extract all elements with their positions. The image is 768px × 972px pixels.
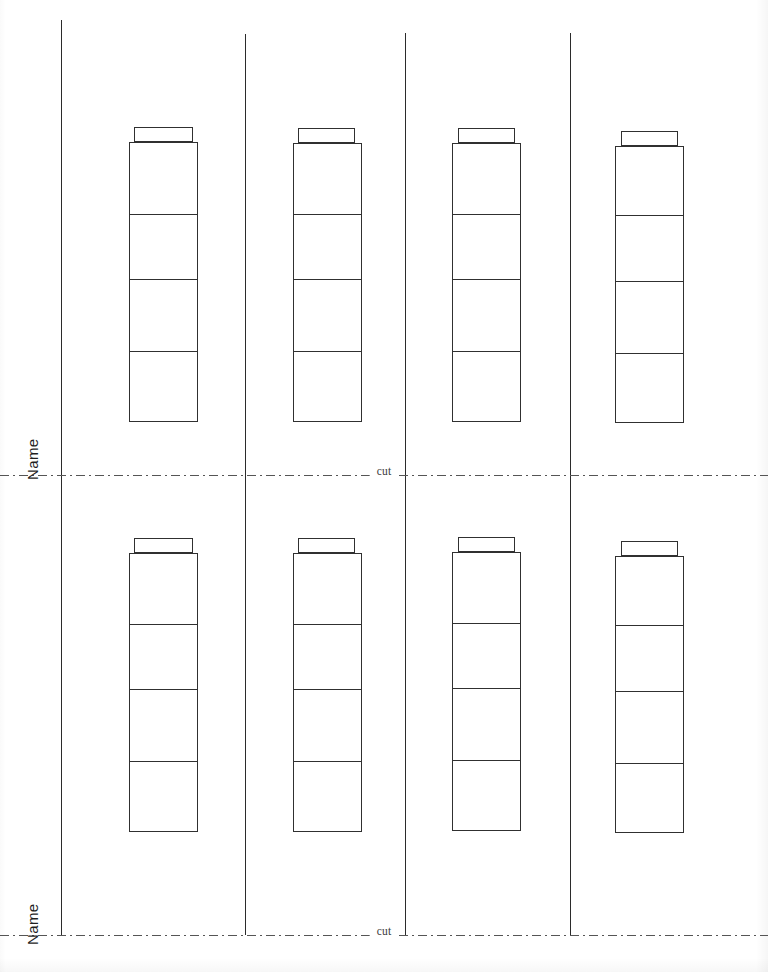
tower-segment-divider: [294, 624, 361, 625]
column-divider-rule-3: [405, 33, 406, 935]
tower-cap: [298, 128, 355, 143]
paper-edge-right-shadow: [756, 0, 768, 972]
tower-cap: [458, 537, 515, 552]
cut-line-label: cut: [370, 466, 399, 478]
tower-segment-divider: [294, 761, 361, 762]
worksheet-page: cutcut NameName: [0, 0, 768, 972]
tower-body: [615, 146, 684, 423]
column-divider-rule-1: [61, 20, 62, 935]
tower-cap: [134, 538, 193, 553]
tower-cap: [298, 538, 355, 553]
tower-body: [452, 143, 521, 422]
tower-segment-divider: [294, 351, 361, 352]
paper-edge-left-shadow: [0, 0, 6, 972]
tower-segment-divider: [130, 279, 197, 280]
tower-segment-divider: [453, 760, 520, 761]
tower-segment-divider: [616, 691, 683, 692]
tower-cap: [458, 128, 515, 143]
tower-segment-divider: [453, 688, 520, 689]
cut-line-label: cut: [370, 926, 399, 938]
tower-segment-divider: [616, 215, 683, 216]
tower-segment-divider: [294, 214, 361, 215]
name-field-label-2: Name: [25, 903, 40, 945]
tower-segment-divider: [130, 624, 197, 625]
name-field-label-1: Name: [25, 438, 40, 480]
tower-body: [129, 553, 198, 832]
tower-segment-divider: [616, 763, 683, 764]
tower-segment-divider: [130, 214, 197, 215]
tower-body: [452, 552, 521, 831]
tower-segment-divider: [616, 625, 683, 626]
tower-segment-divider: [616, 353, 683, 354]
tower-segment-divider: [453, 279, 520, 280]
tower-body: [293, 143, 362, 422]
tower-segment-divider: [616, 281, 683, 282]
paper-edge-bottom-shadow: [0, 958, 768, 972]
tower-body: [615, 556, 684, 833]
tower-segment-divider: [130, 761, 197, 762]
tower-body: [293, 553, 362, 832]
tower-cap: [134, 127, 193, 142]
tower-cap: [621, 541, 678, 556]
tower-segment-divider: [130, 351, 197, 352]
cut-line-1: cut: [0, 475, 768, 476]
tower-segment-divider: [453, 351, 520, 352]
tower-cap: [621, 131, 678, 146]
column-divider-rule-2: [245, 34, 246, 935]
tower-segment-divider: [294, 279, 361, 280]
tower-segment-divider: [453, 214, 520, 215]
tower-segment-divider: [130, 689, 197, 690]
tower-segment-divider: [294, 689, 361, 690]
cut-line-2: cut: [0, 935, 768, 936]
tower-body: [129, 142, 198, 422]
tower-segment-divider: [453, 623, 520, 624]
column-divider-rule-4: [570, 33, 571, 935]
